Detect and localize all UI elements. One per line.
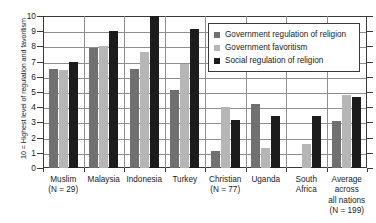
y-tick-label: 2 xyxy=(14,133,36,143)
y-tick-label: 9 xyxy=(14,26,36,36)
chart-legend: Government regulation of religionGovernm… xyxy=(208,23,360,72)
y-tick-label: 3 xyxy=(14,117,36,127)
group-separator xyxy=(84,16,85,168)
bar xyxy=(261,148,270,168)
y-tick-label: 0 xyxy=(14,163,36,173)
legend-swatch-icon xyxy=(214,32,220,38)
x-category-line: (N = 29) xyxy=(37,185,90,195)
y-tick-mark-right xyxy=(367,16,373,17)
bar xyxy=(271,116,280,168)
bar xyxy=(170,90,179,168)
bar xyxy=(221,107,230,168)
legend-item: Social regulation of religion xyxy=(214,54,354,67)
legend-swatch-icon xyxy=(214,58,220,64)
x-category-line: (N = 199) xyxy=(321,206,374,216)
x-tick-mark xyxy=(286,168,287,172)
legend-swatch-icon xyxy=(214,45,220,51)
x-tick-mark xyxy=(165,168,166,172)
y-tick-mark-right xyxy=(367,122,373,123)
y-tick-label: 1 xyxy=(14,148,36,158)
bar xyxy=(302,144,311,168)
bar-chart: 10 = Highest level of regulation and fav… xyxy=(0,0,376,223)
bar xyxy=(332,121,341,168)
y-tick-mark-right xyxy=(367,92,373,93)
y-tick-label: 5 xyxy=(14,87,36,97)
y-tick-label: 8 xyxy=(14,41,36,51)
legend-item: Government favoritism xyxy=(214,41,354,54)
y-tick-label: 10 xyxy=(14,11,36,21)
x-tick-mark xyxy=(367,168,368,172)
y-tick-label: 7 xyxy=(14,57,36,67)
bar xyxy=(59,70,68,168)
y-tick-mark-right xyxy=(367,46,373,47)
y-tick-mark-right xyxy=(367,153,373,154)
bar xyxy=(140,52,149,168)
bar xyxy=(190,29,199,168)
bar xyxy=(49,69,58,168)
y-tick-mark-right xyxy=(367,31,373,32)
y-tick-mark-right xyxy=(367,107,373,108)
legend-label: Government favoritism xyxy=(225,43,307,52)
bar xyxy=(150,16,159,168)
x-category-line: (N = 77) xyxy=(199,185,252,195)
bar-group xyxy=(43,16,84,168)
x-tick-mark xyxy=(43,168,44,172)
bar xyxy=(89,48,98,168)
y-tick-mark-right xyxy=(367,77,373,78)
bar-group xyxy=(84,16,125,168)
legend-label: Social regulation of religion xyxy=(225,56,323,65)
bar xyxy=(130,69,139,168)
x-category-label: Averageacrossall nations(N = 199) xyxy=(321,175,374,217)
bar-group xyxy=(124,16,165,168)
legend-item: Government regulation of religion xyxy=(214,28,354,41)
bar xyxy=(99,46,108,168)
y-tick-label: 6 xyxy=(14,72,36,82)
bar xyxy=(180,64,189,168)
group-separator xyxy=(205,16,206,168)
bar xyxy=(352,97,361,168)
y-tick-mark-right xyxy=(367,138,373,139)
legend-label: Government regulation of religion xyxy=(225,30,346,39)
bar xyxy=(312,116,321,168)
y-tick-label: 4 xyxy=(14,102,36,112)
bar xyxy=(342,95,351,168)
x-tick-mark xyxy=(124,168,125,172)
bar xyxy=(109,31,118,168)
bar xyxy=(251,104,260,168)
bar xyxy=(231,120,240,168)
x-tick-mark xyxy=(246,168,247,172)
x-tick-mark xyxy=(84,168,85,172)
group-separator xyxy=(165,16,166,168)
x-tick-mark xyxy=(327,168,328,172)
bar xyxy=(69,62,78,168)
y-tick-mark-right xyxy=(367,62,373,63)
x-tick-mark xyxy=(205,168,206,172)
group-separator xyxy=(124,16,125,168)
x-category-line: across xyxy=(321,185,374,195)
bar-group xyxy=(165,16,206,168)
bar xyxy=(211,151,220,168)
x-category-line: all nations xyxy=(321,196,374,206)
x-category-line: Average xyxy=(321,175,374,185)
